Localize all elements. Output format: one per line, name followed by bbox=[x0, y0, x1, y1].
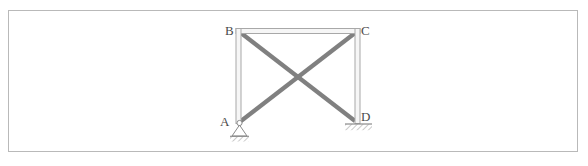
node-label-C: C bbox=[361, 24, 370, 37]
column-CD bbox=[355, 29, 360, 124]
node-label-B: B bbox=[225, 24, 234, 37]
node-label-D: D bbox=[361, 110, 370, 123]
support-D-fixed bbox=[345, 124, 372, 130]
support-A-pin bbox=[230, 120, 249, 141]
beam-BC bbox=[236, 29, 360, 34]
support-D-hatching bbox=[345, 124, 372, 130]
figure-root: B C A D bbox=[0, 0, 588, 166]
support-A-triangle-icon bbox=[232, 125, 247, 136]
structural-frame-diagram bbox=[0, 0, 588, 166]
support-A-hatching bbox=[230, 137, 249, 142]
brace-group bbox=[241, 33, 355, 121]
column-AB bbox=[236, 29, 241, 124]
node-label-A: A bbox=[220, 115, 229, 128]
